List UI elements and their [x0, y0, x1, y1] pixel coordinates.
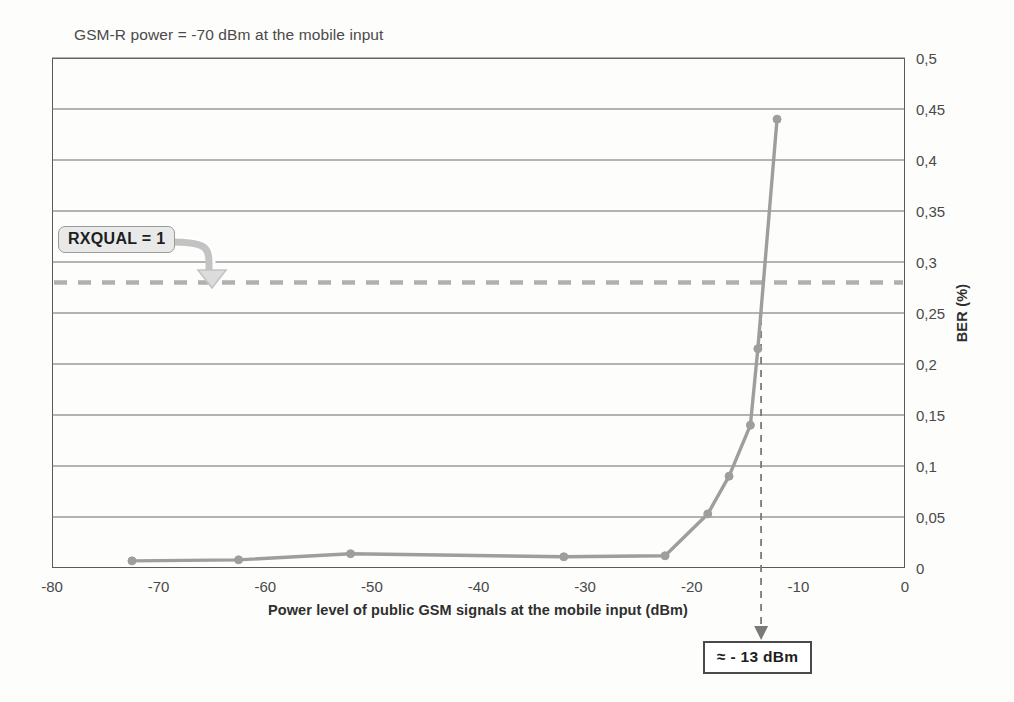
- y-tick-label: 0: [916, 560, 924, 577]
- x-tick-label: -30: [574, 578, 596, 595]
- chart-title: GSM-R power = -70 dBm at the mobile inpu…: [74, 26, 384, 44]
- y-tick-label: 0,1: [916, 458, 937, 475]
- y-tick-label: 0,3: [916, 254, 937, 271]
- y-tick-label: 0,35: [916, 203, 945, 220]
- y-tick-label: 0,25: [916, 305, 945, 322]
- y-tick-label: 0,15: [916, 407, 945, 424]
- y-tick-label: 0,5: [916, 50, 937, 67]
- chart-figure: GSM-R power = -70 dBm at the mobile inpu…: [0, 0, 1014, 702]
- dbm-annotation-box: ≈ - 13 dBm: [703, 641, 812, 674]
- x-tick-label: -50: [361, 578, 383, 595]
- x-tick-label: -70: [148, 578, 170, 595]
- x-tick-label: -60: [254, 578, 276, 595]
- y-tick-label: 0,4: [916, 152, 937, 169]
- x-tick-label: -40: [468, 578, 490, 595]
- x-tick-label: -10: [788, 578, 810, 595]
- y-tick-label: 0,2: [916, 356, 937, 373]
- x-axis-label: Power level of public GSM signals at the…: [268, 602, 688, 618]
- y-tick-label: 0,05: [916, 509, 945, 526]
- x-tick-label: -80: [41, 578, 63, 595]
- y-axis-label: BER (%): [954, 284, 970, 343]
- rxqual-annotation-box: RXQUAL = 1: [58, 226, 175, 253]
- plot-area: [52, 58, 905, 568]
- x-tick-label: -20: [681, 578, 703, 595]
- y-tick-label: 0,45: [916, 101, 945, 118]
- x-tick-label: 0: [901, 578, 909, 595]
